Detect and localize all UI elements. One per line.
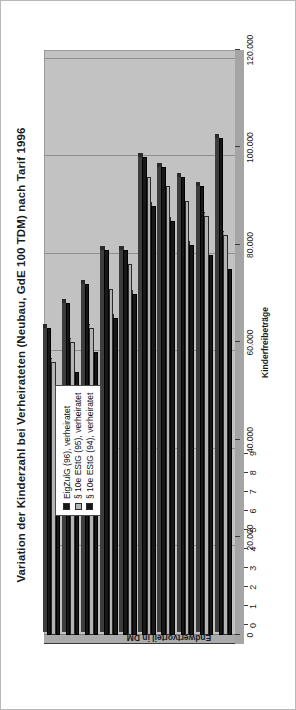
bar-group (216, 50, 235, 635)
bar (200, 187, 204, 636)
bar-body (151, 206, 155, 635)
category-axis-tick (244, 605, 248, 606)
bar (161, 167, 165, 635)
bar (185, 201, 189, 635)
bar-group (178, 50, 197, 635)
bar (219, 138, 223, 635)
category-axis-tick (244, 624, 248, 625)
category-axis-tick (244, 567, 248, 568)
category-axis-label: 9 (248, 441, 258, 467)
bar-body (142, 157, 146, 635)
bar-body (161, 167, 165, 635)
category-axis-tick (244, 586, 248, 587)
legend-swatch-icon (86, 503, 93, 510)
legend-item-label: § 10e EStG (95), verheiratet (73, 393, 83, 499)
bar-body (109, 289, 113, 635)
bar (113, 318, 117, 635)
bar (204, 216, 208, 635)
bar (170, 221, 174, 635)
legend-item: § 10e EStG (94), verheiratet (85, 393, 95, 510)
bar (181, 177, 185, 635)
bar-body (185, 201, 189, 635)
bar (104, 250, 108, 635)
bar (128, 265, 132, 636)
bar-group (197, 50, 216, 635)
chart-title: Variation der Kinderzahl bei Verheiratet… (15, 4, 27, 706)
plot-floor (234, 50, 244, 644)
category-axis: Kinderfreibeträge 0123456789 (244, 50, 274, 635)
legend-swatch-icon (75, 503, 82, 510)
bar-group (63, 50, 82, 635)
bar-group (82, 50, 101, 635)
legend-item-label: EigZulG (96), verheiratet (62, 406, 72, 499)
category-axis-title: Kinderfreibeträge (260, 50, 270, 635)
value-axis-tick (235, 49, 240, 50)
category-axis-tick (244, 491, 248, 492)
bar (109, 289, 113, 635)
value-axis-tick (235, 244, 240, 245)
bar (223, 235, 227, 635)
bar-body (47, 328, 51, 635)
bar (123, 250, 127, 635)
bar-body (189, 245, 193, 635)
bar-body (147, 177, 151, 635)
legend-item: § 10e EStG (95), verheiratet (73, 393, 83, 510)
bar (166, 187, 170, 636)
rotated-chart-wrapper: Variation der Kinderzahl bei Verheiratet… (3, 4, 293, 706)
category-axis-tick (244, 453, 248, 454)
bar-body (223, 235, 227, 635)
value-axis-tick (235, 147, 240, 148)
legend-item-label: § 10e EStG (94), verheiratet (85, 393, 95, 499)
bar-group (140, 50, 159, 635)
bar-body (219, 138, 223, 635)
value-axis-tick (235, 537, 240, 538)
bar-body (104, 250, 108, 635)
plot-area: 020.00040.00060.00080.000100.000120.000 … (44, 50, 244, 644)
bar (228, 269, 232, 635)
bar (209, 255, 213, 635)
bar-body (200, 187, 204, 636)
value-axis-tick (235, 342, 240, 343)
bar-group (159, 50, 178, 635)
bar (132, 294, 136, 635)
category-axis-tick (244, 510, 248, 511)
bar-body (209, 255, 213, 635)
bar-body (170, 221, 174, 635)
value-axis-title: Endwertvorteil in DM (99, 633, 239, 643)
bar-body (113, 318, 117, 635)
bar-body (123, 250, 127, 635)
bar-body (128, 265, 132, 636)
value-axis-tick (235, 439, 240, 440)
chart-figure: Variation der Kinderzahl bei Verheiratet… (3, 4, 293, 706)
bar-body (228, 269, 232, 635)
bar-body (132, 294, 136, 635)
bar (147, 177, 151, 635)
bar (189, 245, 193, 635)
bar (142, 157, 146, 635)
chart-legend: EigZulG (96), verheiratet§ 10e EStG (95)… (55, 385, 101, 516)
category-axis-tick (244, 548, 248, 549)
bar-group (120, 50, 139, 635)
bar (151, 206, 155, 635)
bar-body (181, 177, 185, 635)
value-axis-baseline (44, 643, 235, 644)
legend-swatch-icon (63, 503, 70, 510)
scanned-page-frame: Variation der Kinderzahl bei Verheiratet… (0, 0, 296, 710)
bar-body (166, 187, 170, 636)
bar-body (204, 216, 208, 635)
bar (47, 328, 51, 635)
bar-group (44, 50, 63, 635)
bars-layer (44, 50, 235, 635)
legend-item: EigZulG (96), verheiratet (62, 393, 72, 510)
category-axis-tick (244, 529, 248, 530)
category-axis-tick (244, 472, 248, 473)
bar-group (101, 50, 120, 635)
